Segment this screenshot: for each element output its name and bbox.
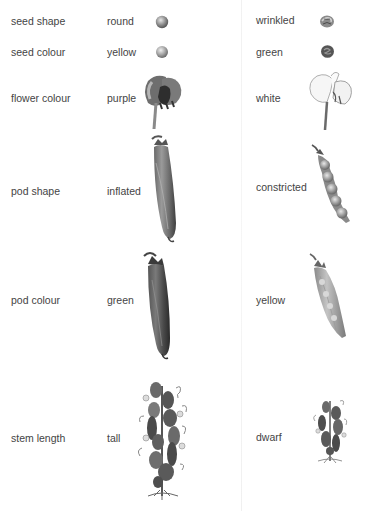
- recessive-label: dwarf: [256, 431, 282, 443]
- trait-name: pod colour: [11, 294, 60, 306]
- recessive-label: constricted: [256, 181, 307, 193]
- recessive-label: yellow: [256, 294, 285, 306]
- trait-name: stem length: [11, 432, 65, 444]
- dominant-label: yellow: [107, 46, 136, 58]
- constricted-pod-icon: [306, 143, 356, 229]
- white-flower-icon: [305, 70, 355, 132]
- trait-name: flower colour: [11, 92, 71, 104]
- page-fold-divider: [241, 0, 242, 511]
- trait-name: seed shape: [11, 15, 65, 27]
- inflated-pod-icon: [144, 133, 184, 245]
- trait-name: pod shape: [11, 185, 60, 197]
- tall-plant-icon: [134, 376, 196, 502]
- recessive-label: white: [256, 92, 281, 104]
- round-seed-icon: [155, 15, 169, 29]
- wrinkled-seed-icon: [319, 13, 335, 29]
- yellow-seed-icon: [155, 45, 169, 59]
- dominant-label: green: [107, 294, 134, 306]
- dwarf-plant-icon: [310, 395, 350, 467]
- recessive-label: green: [256, 46, 283, 58]
- dominant-label: tall: [107, 432, 120, 444]
- dominant-label: purple: [107, 92, 136, 104]
- green-pod-icon: [142, 250, 182, 362]
- yellow-pod-icon: [306, 252, 352, 344]
- green-seed-icon: [320, 44, 335, 59]
- trait-name: seed colour: [11, 46, 65, 58]
- purple-flower-icon: [140, 73, 184, 131]
- dominant-label: inflated: [107, 185, 141, 197]
- recessive-label: wrinkled: [256, 14, 295, 26]
- dominant-label: round: [107, 15, 134, 27]
